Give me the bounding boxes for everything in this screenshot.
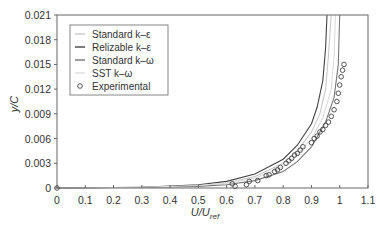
- y-tick-label: 0.015: [25, 58, 51, 70]
- x-tick-label: 0.1: [78, 194, 93, 206]
- y-tick-label: 0.018: [25, 34, 51, 46]
- x-tick-label: 1.1: [361, 194, 376, 206]
- experimental-point: [309, 140, 314, 145]
- experimental-point: [337, 83, 342, 88]
- experimental-point: [329, 114, 334, 119]
- x-tick-label: 1: [337, 194, 343, 206]
- experimental-point: [326, 120, 331, 125]
- x-tick-label: 0.9: [304, 194, 319, 206]
- legend-label: Standard k–ε: [92, 29, 151, 40]
- x-tick-label: 0: [54, 194, 60, 206]
- experimental-point: [335, 99, 340, 104]
- experimental-point: [339, 74, 344, 79]
- x-tick-label: 0.3: [135, 194, 150, 206]
- x-tick-label: 0.4: [163, 194, 178, 206]
- chart: 00.10.20.30.40.50.60.70.80.911.100.0030.…: [0, 0, 381, 230]
- y-tick-label: 0.006: [25, 133, 51, 145]
- y-tick-label: 0.021: [25, 9, 51, 21]
- experimental-point: [332, 107, 337, 112]
- x-tick-label: 0.7: [248, 194, 263, 206]
- y-axis-label: y/C: [8, 96, 20, 114]
- legend-label: SST k–ω: [92, 68, 133, 79]
- x-axis-label: U/Uref: [191, 206, 220, 221]
- y-tick-label: 0.003: [25, 157, 51, 169]
- experimental-point: [340, 68, 345, 73]
- experimental-point: [342, 62, 347, 67]
- legend-label: Standard k–ω: [92, 55, 154, 66]
- x-tick-label: 0.6: [219, 194, 234, 206]
- x-tick-label: 0.2: [106, 194, 121, 206]
- legend-label: Experimental: [92, 81, 150, 92]
- experimental-point: [336, 91, 341, 96]
- legend: Standard k–εRelizable k–εStandard k–ωSST…: [70, 25, 168, 95]
- legend-label: Relizable k–ε: [92, 42, 151, 53]
- y-tick-label: 0.009: [25, 108, 51, 120]
- y-tick-label: 0: [45, 182, 51, 194]
- x-tick-label: 0.5: [191, 194, 206, 206]
- y-tick-label: 0.012: [25, 83, 51, 95]
- x-tick-label: 0.8: [276, 194, 291, 206]
